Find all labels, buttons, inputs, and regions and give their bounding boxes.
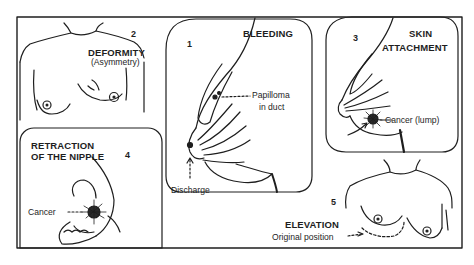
panel-2-subtitle: (Asymmetry) [91, 58, 140, 67]
panel-4-title-line1: RETRACTION [31, 141, 94, 151]
cancer-lump-label: Cancer (lump) [385, 116, 439, 125]
panel-5-title: ELEVATION [285, 220, 339, 230]
panel-3-breast-section-drawing [338, 18, 404, 152]
panel-4-breast-section-drawing [59, 157, 120, 244]
panel-1-number: 1 [187, 40, 192, 49]
papilloma-label: Papilloma [252, 91, 290, 100]
panel-4-number: 4 [125, 151, 130, 160]
cancer-label: Cancer [28, 208, 56, 217]
diagram-artwork [0, 0, 474, 265]
panel-2-torso-drawing [20, 23, 144, 120]
panel-4-title-line2: OF THE NIPPLE [31, 152, 104, 162]
panel-3-title-line2: ATTACHMENT [382, 43, 448, 53]
panel-2-number: 2 [131, 30, 136, 39]
panel-3-number: 3 [353, 34, 358, 43]
panel-5-number: 5 [331, 198, 336, 207]
panel-3-frame [326, 17, 458, 152]
panel-5-torso-drawing [346, 160, 452, 238]
panel-3-title-line1: SKIN [409, 29, 432, 39]
original-position-label: Original position [272, 233, 334, 242]
discharge-label: Discharge [171, 186, 210, 195]
papilloma-label-line2: in duct [259, 103, 284, 112]
panel-1-title: BLEEDING [243, 29, 293, 39]
breast-cancer-signs-diagram: 2 DEFORMITY (Asymmetry) 1 BLEEDING Papil… [0, 0, 474, 265]
